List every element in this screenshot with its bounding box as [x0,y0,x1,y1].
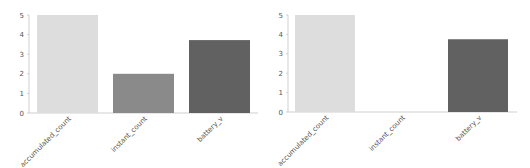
y-tick-label: 4 [279,31,284,39]
bar-battery-v[interactable] [189,40,250,113]
x-category-label: accumulated_count [19,115,73,168]
bar-accumulated-count[interactable] [295,15,355,112]
bar-battery-v[interactable] [448,39,508,112]
bar-chart-left: 012345accumulated_countinstant_countbatt… [0,0,265,168]
y-tick-label: 0 [20,110,24,118]
y-tick-label: 5 [20,12,24,20]
y-tick-label: 3 [20,51,24,59]
y-tick-label: 0 [279,109,283,117]
bar-chart-right: 012345accumulated_countinstant_countbatt… [265,0,530,168]
y-tick-label: 1 [20,90,24,98]
y-tick-label: 5 [279,12,283,20]
y-tick-label: 1 [279,89,283,97]
x-category-label: accumulated_count [276,114,330,168]
chart-panel-right: 012345accumulated_countinstant_countbatt… [265,0,530,168]
chart-panel-left: 012345accumulated_countinstant_countbatt… [0,0,265,168]
x-category-label: battery_v [454,114,483,143]
y-tick-label: 2 [20,70,24,78]
y-tick-label: 2 [279,70,283,78]
x-category-label: battery_v [196,115,225,144]
x-category-label: instant_count [368,114,407,153]
y-tick-label: 4 [20,31,25,39]
bar-instant-count[interactable] [113,74,174,113]
bar-accumulated-count[interactable] [37,15,98,113]
x-category-label: instant_count [110,115,149,154]
y-tick-label: 3 [279,50,283,58]
